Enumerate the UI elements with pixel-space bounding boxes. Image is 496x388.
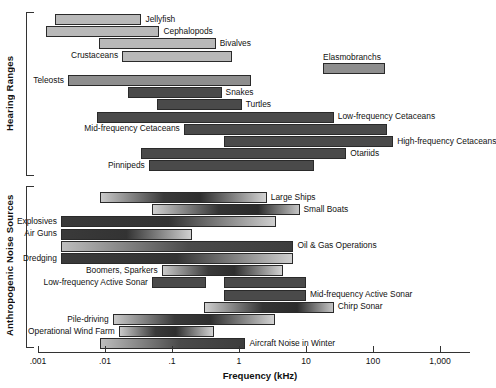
range-bar (46, 26, 160, 37)
range-bar (224, 136, 393, 147)
range-bar (162, 265, 283, 276)
range-bar (68, 75, 251, 86)
range-bar (224, 277, 306, 288)
x-axis-tick (373, 346, 374, 353)
chart-bar-row: Teleosts (0, 75, 494, 86)
range-bar-label: Operational Wind Farm (28, 326, 115, 337)
x-axis-tick-label: 1,000 (429, 356, 451, 366)
range-bar (99, 38, 216, 49)
range-bar-label: Otariids (350, 148, 379, 159)
range-bar-label: Air Guns (24, 228, 57, 239)
chart-bar-row: Dredging (0, 253, 494, 264)
chart-bar-row: Mid-frequency Active Sonar (0, 290, 494, 301)
range-bar (141, 148, 346, 159)
range-bar (61, 229, 192, 240)
chart-bar-row: Jellyfish (0, 14, 494, 25)
chart-bar-row: Small Boats (0, 204, 494, 215)
chart-bar-row: Aircraft Noise in Winter (0, 338, 494, 349)
range-bar-label: Snakes (226, 87, 254, 98)
range-bar-label: Bivalves (220, 38, 251, 49)
range-bar-label: Aircraft Noise in Winter (249, 338, 335, 349)
chart-bar-row: Mid-frequency Cetaceans (0, 124, 494, 135)
x-axis-tick-label: .01 (99, 356, 111, 366)
x-axis-tick (172, 346, 173, 353)
range-bar (61, 216, 276, 227)
chart-bar-row: Otariids (0, 148, 494, 159)
range-bar (149, 160, 314, 171)
range-bar-label: Elasmobranchs (323, 52, 381, 63)
range-bar (224, 290, 306, 301)
range-bar-label: Dredging (23, 253, 57, 264)
range-bar (113, 314, 275, 325)
range-bar (100, 192, 267, 203)
range-bar (55, 14, 141, 25)
range-bar-label: Pinnipeds (108, 160, 145, 171)
chart-bar-row: Bivalves (0, 38, 494, 49)
range-bar (204, 302, 334, 313)
chart-bar-row: Operational Wind Farm (0, 326, 494, 337)
x-axis-tick (440, 346, 441, 353)
chart-bar-row: Large Ships (0, 192, 494, 203)
range-bar-label: Pile-driving (67, 314, 108, 325)
range-bar (323, 63, 385, 74)
x-axis-title: Frequency (kHz) (0, 370, 494, 381)
range-bar-label: Large Ships (271, 192, 316, 203)
range-bar-label: High-frequency Cetaceans (397, 136, 496, 147)
x-axis-tick (105, 346, 106, 353)
chart-bar-row: Chirp Sonar (0, 302, 494, 313)
x-axis-title-text: Frequency (kHz) (223, 370, 298, 381)
range-bar-label: Mid-frequency Active Sonar (310, 289, 412, 300)
range-bar-label: Low-frequency Cetaceans (338, 111, 435, 122)
x-axis-tick (239, 346, 240, 353)
range-bar (122, 51, 232, 62)
range-bar (61, 253, 294, 264)
range-bar-label: Oil & Gas Operations (297, 240, 376, 251)
x-axis-tick (306, 346, 307, 353)
chart-bar-row: Low-frequency Cetaceans (0, 112, 494, 123)
range-bar-label: Crustaceans (71, 50, 118, 61)
range-bar-label: Teleosts (33, 75, 64, 86)
range-bar-label: Explosives (17, 216, 57, 227)
chart-bar-row: Pile-driving (0, 314, 494, 325)
x-axis-tick-label: .1 (168, 356, 175, 366)
range-bar (184, 124, 387, 135)
chart-bar-row: Explosives (0, 216, 494, 227)
chart-bar-row: Turtles (0, 99, 494, 110)
range-bar-label: Small Boats (304, 204, 349, 215)
chart-bar-row: Pinnipeds (0, 160, 494, 171)
range-bar (97, 112, 334, 123)
range-bar (128, 87, 222, 98)
chart-bar-row: Crustaceans (0, 51, 494, 62)
x-axis-tick-label: 1 (237, 356, 242, 366)
x-axis-line (38, 352, 470, 353)
chart-bar-row: Air Guns (0, 229, 494, 240)
range-bar-label: Chirp Sonar (338, 301, 383, 312)
x-axis-tick-label: .001 (30, 356, 47, 366)
chart-bar-row: High-frequency Cetaceans (0, 136, 494, 147)
range-bar (61, 241, 294, 252)
chart-bar-row: Oil & Gas Operations (0, 241, 494, 252)
range-bar-label: Mid-frequency Cetaceans (84, 123, 179, 134)
chart-bar-row: Elasmobranchs (0, 63, 494, 74)
chart-bar-row: Snakes (0, 87, 494, 98)
chart-bar-row (0, 277, 494, 288)
chart-bar-row: Boomers, Sparkers (0, 265, 494, 276)
x-axis-tick (38, 346, 39, 353)
range-bar-label: Jellyfish (145, 14, 175, 25)
range-bar-label: Cephalopods (163, 26, 212, 37)
range-bar (119, 326, 214, 337)
range-bar-label: Turtles (246, 99, 271, 110)
range-bar-label: Boomers, Sparkers (86, 265, 158, 276)
x-axis-tick-label: 10 (301, 356, 311, 366)
chart-bar-row: Cephalopods (0, 26, 494, 37)
x-axis-tick-label: 100 (366, 356, 380, 366)
range-bar (152, 204, 300, 215)
range-bar (157, 99, 242, 110)
